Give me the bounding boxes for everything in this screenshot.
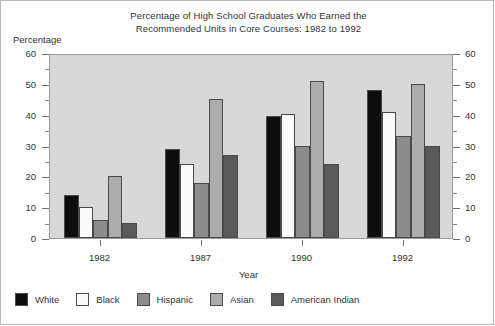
- legend: WhiteBlackHispanicAsianAmerican Indian: [15, 293, 376, 306]
- chart-title-line-2: Recommended Units in Core Courses: 1982 …: [1, 22, 495, 35]
- y-axis-label-right-60: 60: [465, 48, 491, 59]
- y-axis-label-left-40: 40: [10, 110, 36, 121]
- y-axis-label-left-30: 30: [10, 141, 36, 152]
- bar-white-1990: [266, 116, 281, 238]
- y-axis-label-right-30: 30: [465, 141, 491, 152]
- y-tick-left-30: [42, 147, 49, 148]
- y-tick-right-40: [453, 116, 460, 117]
- x-axis-label-1982: 1982: [70, 252, 130, 263]
- y-tick-minor-right-25: [453, 162, 457, 163]
- legend-label-black: Black: [96, 294, 119, 305]
- bar-white-1992: [367, 90, 382, 238]
- y-axis-label-right-10: 10: [465, 202, 491, 213]
- y-axis-label-left-0: 0: [10, 233, 36, 244]
- legend-swatch-black: [76, 293, 89, 306]
- plot-area: [49, 54, 453, 239]
- bar-hispanic-1992: [396, 136, 411, 238]
- bar-hispanic-1982: [93, 220, 108, 239]
- y-tick-left-10: [42, 208, 49, 209]
- legend-item-black: Black: [76, 293, 119, 306]
- bar-american-indian-1992: [425, 146, 440, 239]
- legend-swatch-american-indian: [271, 293, 284, 306]
- y-tick-minor-right-5: [453, 224, 457, 225]
- y-tick-minor-left-5: [45, 224, 49, 225]
- x-tick-1992: [403, 240, 404, 246]
- legend-label-american-indian: American Indian: [291, 294, 360, 305]
- y-tick-right-10: [453, 208, 460, 209]
- chart-title: Percentage of High School Graduates Who …: [1, 9, 495, 35]
- y-tick-right-0: [453, 239, 460, 240]
- y-tick-right-50: [453, 85, 460, 86]
- y-tick-minor-left-45: [45, 100, 49, 101]
- y-axis-label-right-20: 20: [465, 171, 491, 182]
- bar-american-indian-1990: [324, 164, 339, 238]
- y-axis-label-left-10: 10: [10, 202, 36, 213]
- bar-white-1987: [165, 149, 180, 238]
- y-tick-minor-left-55: [45, 69, 49, 70]
- y-tick-minor-left-15: [45, 193, 49, 194]
- bars-layer: [50, 55, 452, 238]
- bar-hispanic-1990: [295, 146, 310, 239]
- y-axis-label-right-50: 50: [465, 79, 491, 90]
- y-tick-right-30: [453, 147, 460, 148]
- legend-item-asian: Asian: [210, 293, 254, 306]
- chart-title-line-1: Percentage of High School Graduates Who …: [1, 9, 495, 22]
- x-axis-label-1990: 1990: [272, 252, 332, 263]
- y-tick-left-50: [42, 85, 49, 86]
- legend-label-asian: Asian: [230, 294, 254, 305]
- x-axis-label-1992: 1992: [373, 252, 433, 263]
- y-axis-label-right-40: 40: [465, 110, 491, 121]
- y-axis-label-left-20: 20: [10, 171, 36, 182]
- y-tick-left-60: [42, 54, 49, 55]
- x-tick-1982: [100, 240, 101, 246]
- y-axis-label-left-60: 60: [10, 48, 36, 59]
- bar-white-1982: [64, 195, 79, 238]
- y-tick-right-60: [453, 54, 460, 55]
- y-tick-minor-right-15: [453, 193, 457, 194]
- y-tick-minor-right-45: [453, 100, 457, 101]
- bar-asian-1990: [310, 81, 325, 238]
- x-axis-title: Year: [1, 269, 495, 280]
- y-axis-label-right-0: 0: [465, 233, 491, 244]
- chart-frame: Percentage of High School Graduates Who …: [0, 0, 494, 325]
- y-axis-label-left-50: 50: [10, 79, 36, 90]
- legend-item-hispanic: Hispanic: [137, 293, 193, 306]
- legend-label-hispanic: Hispanic: [157, 294, 193, 305]
- bar-asian-1982: [108, 176, 123, 238]
- y-tick-left-0: [42, 239, 49, 240]
- x-axis-label-1987: 1987: [171, 252, 231, 263]
- legend-swatch-hispanic: [137, 293, 150, 306]
- y-tick-minor-left-25: [45, 162, 49, 163]
- bar-black-1982: [79, 207, 94, 238]
- x-tick-1987: [201, 240, 202, 246]
- bar-black-1992: [382, 112, 397, 238]
- y-axis-title: Percentage: [13, 34, 62, 45]
- bar-american-indian-1987: [223, 155, 238, 238]
- y-tick-minor-left-35: [45, 131, 49, 132]
- legend-swatch-asian: [210, 293, 223, 306]
- bar-black-1990: [281, 114, 296, 238]
- bar-asian-1987: [209, 99, 224, 238]
- y-tick-right-20: [453, 177, 460, 178]
- legend-item-american-indian: American Indian: [271, 293, 360, 306]
- y-tick-left-40: [42, 116, 49, 117]
- bar-american-indian-1982: [122, 223, 137, 238]
- legend-item-white: White: [15, 293, 59, 306]
- x-tick-1990: [302, 240, 303, 246]
- legend-swatch-white: [15, 293, 28, 306]
- bar-black-1987: [180, 164, 195, 238]
- y-tick-minor-right-55: [453, 69, 457, 70]
- bar-hispanic-1987: [194, 183, 209, 239]
- y-tick-minor-right-35: [453, 131, 457, 132]
- y-tick-left-20: [42, 177, 49, 178]
- legend-label-white: White: [35, 294, 59, 305]
- bar-asian-1992: [411, 84, 426, 238]
